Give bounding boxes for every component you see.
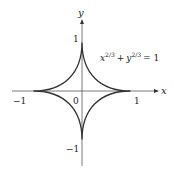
svg-text:x2/3+y2/3= 1: x2/3+y2/3= 1 — [100, 51, 159, 63]
equation-label: x2/3+y2/3= 1 — [100, 51, 159, 63]
tick-x-zero: 0 — [73, 96, 79, 106]
x-axis-label: x — [161, 85, 167, 96]
y-axis-label: y — [77, 7, 84, 18]
tick-y-neg: −1 — [66, 144, 79, 154]
tick-y-pos: 1 — [73, 34, 79, 44]
tick-x-neg: −1 — [13, 96, 26, 106]
astroid-diagram: x y 1 −1 0 1 −1 x2/3+y2/3= 1 — [0, 0, 174, 173]
tick-x-pos: 1 — [134, 96, 140, 106]
